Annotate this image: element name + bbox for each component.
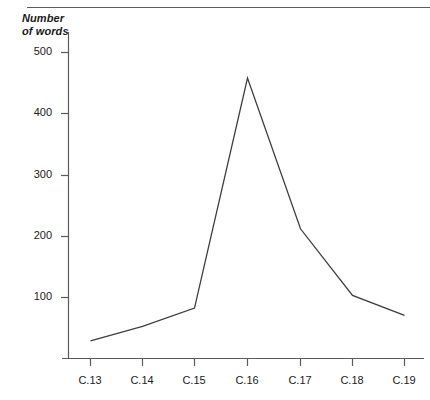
y-tick-label-400: 400 <box>12 106 52 118</box>
x-tick-label-c15: C.15 <box>169 374 219 386</box>
chart-figure: Numberof words 500 400 300 200 1 <box>0 0 430 400</box>
plot-area <box>0 0 430 400</box>
x-tick-label-c14: C.14 <box>117 374 167 386</box>
data-series-line <box>91 78 405 341</box>
y-tick-label-300: 300 <box>12 168 52 180</box>
x-axis-ticks <box>91 359 405 366</box>
y-tick-label-500: 500 <box>12 45 52 57</box>
y-tick-label-200: 200 <box>12 229 52 241</box>
y-tick-label-100: 100 <box>12 290 52 302</box>
x-tick-label-c16: C.16 <box>222 374 272 386</box>
x-tick-label-c17: C.17 <box>275 374 325 386</box>
x-tick-label-c13: C.13 <box>65 374 115 386</box>
y-axis-ticks <box>61 53 68 298</box>
x-tick-label-c19: C.19 <box>379 374 429 386</box>
x-tick-label-c18: C.18 <box>327 374 377 386</box>
